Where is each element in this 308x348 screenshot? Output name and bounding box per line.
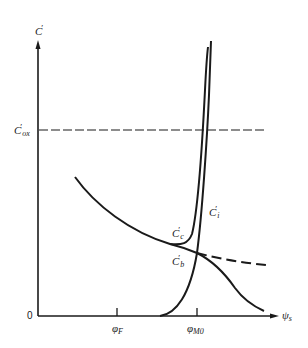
cc-label: C′c	[172, 226, 184, 241]
y-axis-label: C′	[35, 24, 43, 37]
cox-label: C′ox	[14, 123, 30, 138]
phi-m0-label: φM0	[187, 323, 204, 336]
x-axis-arrow-icon	[270, 314, 279, 319]
origin-label: 0	[27, 311, 33, 321]
deep-depletion-curve	[197, 253, 264, 311]
x-axis-label: ψs	[282, 310, 292, 323]
cb-label: C′b	[172, 254, 184, 269]
y-axis-arrow-icon	[36, 40, 41, 49]
ci-label: C′i	[209, 205, 220, 220]
depletion-curve	[75, 177, 197, 253]
phi-f-label: φF	[112, 323, 123, 336]
cv-diagram	[0, 0, 308, 348]
curve-cc	[170, 47, 208, 244]
curve-ci	[160, 41, 211, 316]
